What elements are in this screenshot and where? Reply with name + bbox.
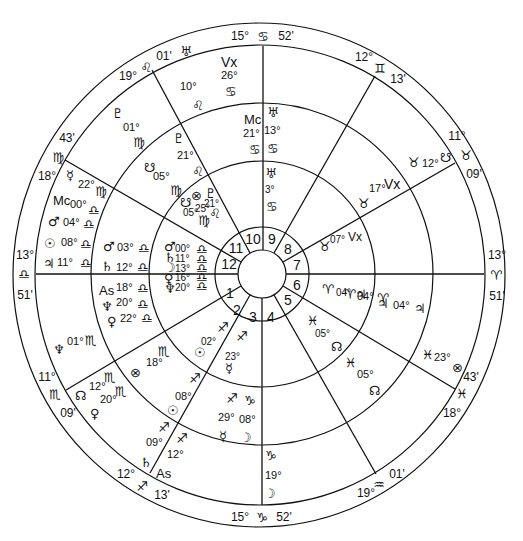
virgo-icon: ♍	[133, 135, 145, 150]
ic-sign-icon: ♑	[256, 510, 268, 525]
house-number-7: 7	[293, 257, 301, 273]
neptune-icon: ♆	[53, 342, 65, 357]
sagittarius-icon: ♐	[176, 431, 188, 446]
jupiter-icon: ♃	[377, 296, 389, 311]
svg-text:04°: 04°	[393, 299, 410, 311]
svg-text:23°: 23°	[434, 351, 451, 363]
astrology-chart-wheel: 1 2 3 4 5 6 7 8 9 10 11 12 13° ♎ 51' 11°…	[0, 0, 523, 541]
cusp3-min: 13'	[154, 488, 170, 502]
capricorn-icon: ♑	[244, 393, 256, 408]
dsc-min: 51'	[489, 289, 505, 303]
libra-icon: ♎	[137, 281, 149, 296]
cusp6-deg: 18°	[443, 406, 461, 420]
sagittarius-icon: ♐	[217, 320, 229, 335]
saturn-icon: ♄	[101, 259, 113, 274]
cusp11-deg: 19°	[119, 69, 137, 83]
cusp5-sign-icon: ♒	[373, 477, 385, 492]
venus-icon: ♀	[107, 314, 117, 329]
svg-text:08°: 08°	[239, 413, 256, 425]
cusp8-sign-icon: ♉	[460, 148, 472, 163]
cusp9-min: 13'	[390, 72, 406, 86]
vertex-icon: Vx	[384, 176, 400, 192]
mercury-icon: ☿	[66, 168, 74, 183]
asc-sign-icon: ♎	[18, 267, 30, 282]
libra-icon: ♎	[141, 311, 153, 326]
sagittarius-icon: ♐	[226, 391, 238, 406]
svg-text:20°: 20°	[116, 296, 133, 308]
mars-icon: ♂	[103, 239, 115, 254]
ic-deg: 15°	[231, 510, 249, 524]
cusp8-deg: 11°	[448, 129, 465, 143]
dsc-sign-icon: ♈	[490, 268, 502, 283]
leo-icon: ♌	[192, 164, 204, 179]
sun-icon: ☉	[44, 236, 56, 251]
cusp-8-line	[283, 163, 455, 262]
svg-text:03°: 03°	[117, 241, 134, 253]
taurus-icon: ♉	[319, 239, 331, 254]
cusp2-sign-icon: ♏	[49, 387, 61, 402]
svg-text:02°: 02°	[201, 336, 216, 347]
svg-text:13°: 13°	[264, 124, 281, 136]
midheaven-icon: Mc	[53, 193, 71, 208]
house-number-10: 10	[245, 231, 261, 247]
svg-text:21°: 21°	[243, 127, 260, 139]
house-number-12: 12	[221, 256, 237, 272]
uranus-icon: ♅	[180, 44, 192, 59]
jupiter-icon: ♃	[43, 256, 55, 271]
scorpio-icon: ♏	[115, 384, 127, 399]
svg-text:10°: 10°	[180, 80, 197, 92]
mars-icon: ♂	[48, 214, 60, 229]
asc-deg: 13°	[16, 248, 34, 262]
center-circle	[238, 250, 286, 298]
cusp3-deg: 12°	[117, 467, 135, 481]
svg-text:29°: 29°	[218, 411, 235, 423]
house-number-3: 3	[249, 309, 257, 325]
cusp8-min: 09'	[466, 167, 482, 181]
cancer-icon: ♋	[225, 84, 237, 99]
cusp2-deg: 11°	[38, 370, 55, 384]
pisces-icon: ♓	[345, 355, 357, 370]
ascendant-icon: As	[156, 466, 172, 481]
svg-text:22°: 22°	[120, 312, 137, 324]
libra-icon: ♎	[80, 256, 92, 271]
dsc-deg: 13°	[488, 248, 506, 262]
uranus-icon: ♅	[267, 105, 279, 120]
house-number-8: 8	[284, 241, 292, 257]
house-number-1: 1	[226, 285, 234, 301]
svg-text:04°: 04°	[63, 216, 80, 228]
south-node-icon: ☋	[440, 150, 452, 165]
capricorn-icon: ♑	[265, 448, 277, 463]
svg-text:21°: 21°	[177, 149, 194, 161]
cusp9-sign-icon: ♊	[374, 61, 386, 76]
svg-text:12°: 12°	[422, 157, 439, 169]
midheaven-icon: Mc	[244, 112, 262, 127]
moon-icon: ☽	[240, 430, 252, 445]
libra-icon: ♎	[83, 217, 95, 232]
svg-text:08°: 08°	[61, 236, 78, 248]
pluto-icon: ♇	[173, 131, 185, 146]
taurus-icon: ♉	[408, 155, 420, 170]
house-number-4: 4	[267, 309, 275, 325]
svg-text:05°: 05°	[315, 328, 330, 339]
svg-text:05°: 05°	[183, 207, 198, 218]
aries-icon: ♈	[322, 282, 334, 297]
part-of-fortune-icon: ⊗	[191, 188, 202, 203]
cusp2-min: 09'	[60, 406, 76, 420]
cusp11-min: 01'	[156, 49, 172, 63]
svg-text:12°: 12°	[116, 261, 133, 273]
mc-deg: 15°	[231, 29, 249, 43]
cusp12-sign-icon: ♍	[52, 150, 64, 165]
house-number-11: 11	[229, 240, 244, 256]
north-node-icon: ☊	[75, 388, 87, 403]
north-node-icon: ☊	[369, 383, 381, 398]
part-of-fortune-icon: ⊗	[130, 365, 141, 380]
jupiter-icon: ♃	[414, 301, 426, 316]
sun-icon: ☉	[194, 345, 206, 360]
cusp6-sign-icon: ♓	[456, 386, 468, 401]
asc-min: 51'	[17, 288, 33, 302]
mercury-icon: ☿	[225, 361, 233, 376]
house-number-6: 6	[293, 277, 301, 293]
middle-ring-planets: Mc 21° ♋ ♅ 13° ♋ ♇ 21° ♌ ☋ 05° ♍ ♂ 03° ♎…	[99, 105, 400, 445]
svg-text:11°: 11°	[57, 256, 73, 268]
house-number-2: 2	[233, 302, 241, 318]
